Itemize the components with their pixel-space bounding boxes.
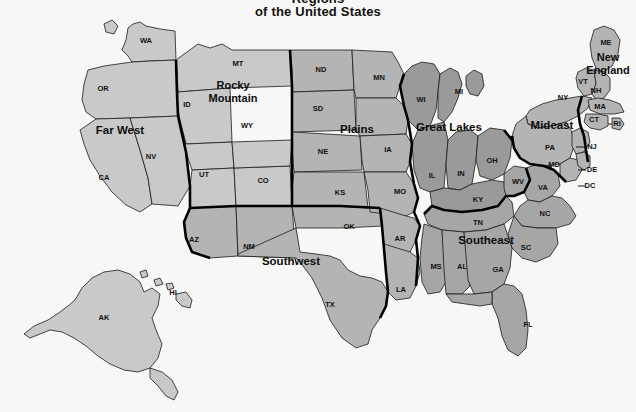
state-label-ne: NE [318,147,328,156]
region-label-mideast[interactable]: Mideast [531,119,574,131]
region-label-line: Mountain [209,92,258,104]
us-regions-svg: WAORCANVAKHIMTIDWYUTCOAZNMTXOKNDSDNEKSMN… [0,0,636,412]
region-label-line: Far West [96,124,145,136]
state-label-ga: GA [492,265,504,274]
region-label-line: New [597,51,620,63]
region-label-southeast[interactable]: Southeast [458,234,514,246]
state-label-sd: SD [313,104,324,113]
state-label-nv: NV [146,152,156,161]
state-label-sc: SC [521,243,532,252]
state-label-wi: WI [416,95,425,104]
state-label-nd: ND [316,65,327,74]
state-label-tn: TN [473,218,483,227]
state-label-ms: MS [430,262,441,271]
state-label-wy: WY [241,121,253,130]
state-wa-islands [104,20,118,34]
region-label-line: England [586,64,629,76]
state-label-mn: MN [373,73,385,82]
region-label-line: Rocky [216,79,250,91]
state-label-ak: AK [99,313,110,322]
state-label-dc: DC [585,181,596,190]
state-label-nm: NM [243,242,255,251]
state-label-ct: CT [589,115,599,124]
state-label-co: CO [257,176,268,185]
region-shape-far-west[interactable] [80,20,190,212]
state-ak-shape[interactable] [24,270,162,372]
region-label-far-west[interactable]: Far West [96,124,145,136]
state-label-or: OR [97,84,109,93]
state-label-pa: PA [545,143,555,152]
state-label-ar: AR [395,234,406,243]
state-label-me: ME [600,38,611,47]
state-label-az: AZ [189,235,199,244]
region-label-line: Plains [340,123,374,135]
state-label-ut: UT [199,170,209,179]
state-label-nj: NJ [587,142,597,151]
state-label-mt: MT [233,59,244,68]
state-label-de: DE [587,165,597,174]
region-shape-southwest[interactable] [184,206,388,348]
state-label-hi: HI [169,288,177,297]
state-label-ok: OK [343,222,355,231]
state-label-id: ID [183,100,191,109]
region-label-line: Southwest [262,255,320,267]
region-label-plains[interactable]: Plains [340,123,374,135]
region-label-line: Southeast [458,234,514,246]
state-label-ny: NY [558,93,568,102]
state-label-fl: FL [523,320,533,329]
state-label-vt: VT [578,77,588,86]
region-label-line: Mideast [531,119,574,131]
state-label-il: IL [429,171,436,180]
state-label-ks: KS [335,188,345,197]
state-label-al: AL [457,262,467,271]
state-label-tx: TX [325,300,335,309]
state-label-nh: NH [591,86,602,95]
state-label-oh: OH [486,156,497,165]
state-label-ca: CA [99,173,110,182]
state-label-in: IN [457,169,465,178]
region-shape-rocky-mountain[interactable] [176,44,292,208]
state-label-wv: WV [512,177,524,186]
state-ak-tail [150,368,178,400]
region-label-line: Great Lakes [416,121,482,133]
state-label-mo: MO [394,187,406,196]
state-label-va: VA [538,183,548,192]
state-label-md: MD [548,160,560,169]
state-label-ia: IA [384,145,392,154]
state-label-ky: KY [473,195,483,204]
state-label-ri: RI [613,119,621,128]
state-label-la: LA [396,285,407,294]
state-label-ma: MA [594,102,606,111]
region-label-southwest[interactable]: Southwest [262,255,320,267]
state-label-nc: NC [540,209,551,218]
region-label-great-lakes[interactable]: Great Lakes [416,121,482,133]
map-container: Regions of the United States [0,0,636,412]
state-label-wa: WA [140,36,153,45]
state-label-mi: MI [455,87,463,96]
